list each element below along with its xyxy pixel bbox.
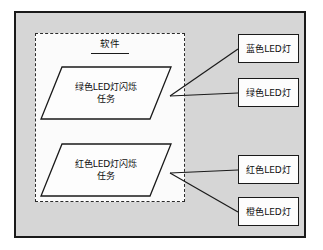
hardware-node-green-led: 绿色LED灯 — [238, 78, 299, 107]
hardware-node-blue-led: 蓝色LED灯 — [238, 34, 299, 63]
hardware-node-blue-led-label: 蓝色LED灯 — [246, 42, 291, 55]
parallelogram-shape — [41, 67, 171, 119]
title-underline — [91, 53, 129, 54]
hardware-node-orange-led-label: 橙色LED灯 — [246, 205, 291, 218]
task-node-green-blink: 绿色LED灯闪烁 任务 — [40, 66, 172, 120]
hardware-node-red-led: 红色LED灯 — [238, 155, 299, 184]
software-partition-title: 软件 — [36, 38, 184, 50]
hardware-node-orange-led: 橙色LED灯 — [238, 197, 299, 226]
parallelogram-shape — [41, 144, 171, 196]
task-node-red-blink: 红色LED灯闪烁 任务 — [40, 143, 172, 197]
block-diagram: 软件 绿色LED灯闪烁 任务 红色LED灯闪烁 任务 蓝色LED灯 绿色LED灯 — [0, 0, 323, 250]
hardware-node-green-led-label: 绿色LED灯 — [246, 86, 291, 99]
hardware-node-red-led-label: 红色LED灯 — [246, 163, 291, 176]
